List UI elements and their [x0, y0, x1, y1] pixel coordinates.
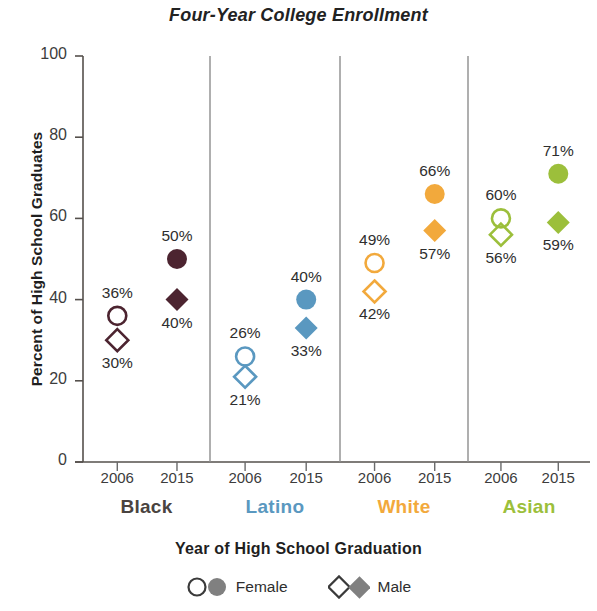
data-point-circle — [296, 290, 316, 310]
x-tick-label: 2015 — [528, 469, 588, 486]
legend-item-female: Female — [186, 575, 288, 599]
data-point-circle — [548, 164, 568, 184]
legend-label-female: Female — [236, 578, 288, 596]
data-point-circle — [108, 307, 126, 325]
data-point-diamond — [234, 366, 256, 388]
y-tick-label: 80 — [25, 126, 67, 144]
data-label-black-2015-female: 50% — [147, 227, 207, 245]
legend-item-male: Male — [328, 575, 412, 599]
data-point-diamond — [106, 329, 128, 351]
y-tick-label: 100 — [25, 45, 67, 63]
data-label-latino-2015-female: 40% — [276, 268, 336, 286]
x-tick-label: 2015 — [405, 469, 465, 486]
legend-circle-icon — [186, 575, 228, 599]
data-point-diamond — [295, 317, 318, 340]
x-tick-label: 2006 — [345, 469, 405, 486]
data-label-asian-2015-male: 59% — [528, 236, 588, 254]
data-point-circle — [425, 184, 445, 204]
legend-label-male: Male — [378, 578, 412, 596]
data-label-white-2015-female: 66% — [405, 162, 465, 180]
data-label-white-2015-male: 57% — [405, 245, 465, 263]
x-tick-label: 2006 — [471, 469, 531, 486]
data-label-latino-2006-female: 26% — [215, 324, 275, 342]
data-point-circle — [167, 249, 187, 269]
data-label-white-2006-male: 42% — [345, 305, 405, 323]
data-label-black-2015-male: 40% — [147, 314, 207, 332]
group-label-white: White — [334, 496, 474, 518]
y-tick-label: 60 — [25, 207, 67, 225]
data-point-diamond — [364, 280, 386, 302]
group-label-asian: Asian — [459, 496, 597, 518]
x-tick-label: 2015 — [147, 469, 207, 486]
data-label-asian-2006-female: 60% — [471, 186, 531, 204]
x-tick-label: 2006 — [215, 469, 275, 486]
y-tick-label: 20 — [25, 370, 67, 388]
data-label-asian-2006-male: 56% — [471, 249, 531, 267]
data-label-latino-2015-male: 33% — [276, 342, 336, 360]
data-label-black-2006-female: 36% — [87, 284, 147, 302]
group-label-latino: Latino — [205, 496, 345, 518]
data-label-white-2006-female: 49% — [345, 231, 405, 249]
x-axis-label: Year of High School Graduation — [0, 540, 597, 558]
y-tick-label: 0 — [25, 451, 67, 469]
data-point-diamond — [423, 219, 446, 242]
plot-area — [0, 0, 597, 611]
legend-diamond-icon — [328, 575, 370, 599]
data-label-latino-2006-male: 21% — [215, 391, 275, 409]
chart-container: Four-Year College Enrollment Percent of … — [0, 0, 597, 611]
chart-legend: Female Male — [0, 575, 597, 599]
y-tick-label: 40 — [25, 289, 67, 307]
group-label-black: Black — [77, 496, 217, 518]
data-point-circle — [366, 254, 384, 272]
x-tick-label: 2015 — [276, 469, 336, 486]
data-point-diamond — [547, 211, 570, 234]
data-label-black-2006-male: 30% — [87, 354, 147, 372]
data-label-asian-2015-female: 71% — [528, 142, 588, 160]
data-point-circle — [236, 347, 254, 365]
x-tick-label: 2006 — [87, 469, 147, 486]
data-point-diamond — [165, 288, 188, 311]
